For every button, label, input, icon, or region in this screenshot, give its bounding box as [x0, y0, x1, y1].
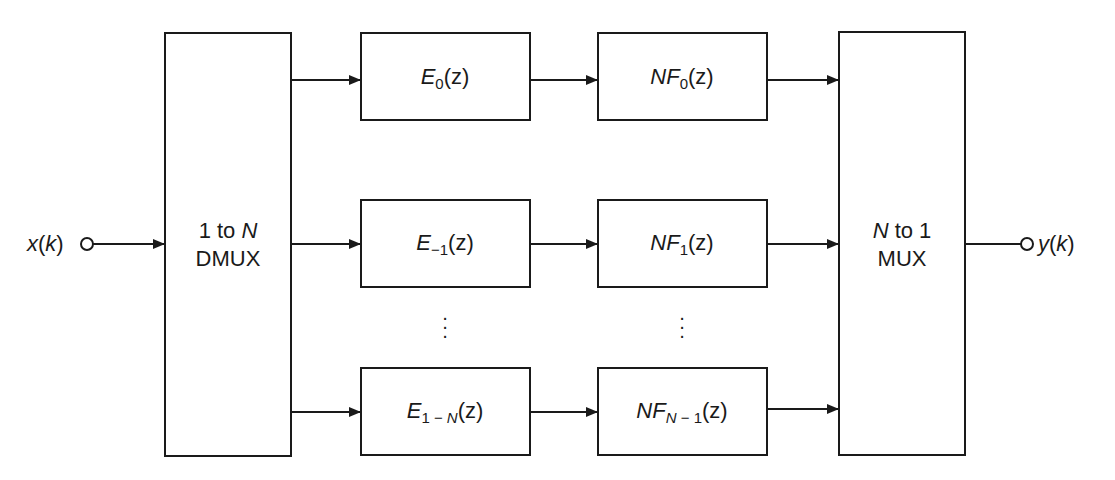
input-var: x: [27, 231, 38, 256]
input-terminal: [81, 238, 93, 250]
ellipsis-nf-column: ···: [679, 313, 686, 340]
e0-arg: (z): [444, 64, 470, 89]
nfn-1-symbol: NF: [636, 398, 665, 423]
e0-label: E0(z): [421, 66, 470, 88]
nf1-symbol: NF: [650, 230, 679, 255]
e1-n-label: E1 − N(z): [407, 400, 484, 422]
dmux-label: 1 to N DMUX: [196, 217, 261, 272]
e-1-symbol: E: [416, 230, 431, 255]
e1-n-arg: (z): [458, 398, 484, 423]
nf0-arg: (z): [688, 64, 714, 89]
diagram-canvas: [0, 0, 1115, 480]
output-arg: k: [1056, 231, 1067, 256]
nf0-label: NF0(z): [650, 66, 713, 88]
nf0-subscript: 0: [680, 75, 688, 92]
ellipsis-e-column: ···: [442, 313, 449, 340]
nf0-symbol: NF: [650, 64, 679, 89]
input-label: x(k): [27, 233, 64, 255]
nfn-1-subscript-var: N: [666, 409, 677, 426]
nf1-arg: (z): [688, 230, 714, 255]
input-arg: k: [45, 231, 56, 256]
mux-label: N to 1 MUX: [873, 217, 932, 272]
nf1-subscript: 1: [680, 241, 688, 258]
e1-n-subscript-var: N: [447, 409, 458, 426]
nf1-label: NF1(z): [650, 232, 713, 254]
e-1-arg: (z): [448, 230, 474, 255]
e-1-label: E−1(z): [416, 232, 473, 254]
output-terminal: [1021, 238, 1033, 250]
output-var: y: [1038, 231, 1049, 256]
output-label: y(k): [1038, 233, 1075, 255]
e-1-subscript: −1: [431, 241, 448, 258]
nfn-1-subscript-post: − 1: [677, 409, 702, 426]
e0-symbol: E: [421, 64, 436, 89]
e1-n-symbol: E: [407, 398, 422, 423]
dmux-line2: DMUX: [196, 245, 261, 270]
dmux-line1-prefix: 1 to: [199, 218, 242, 243]
mux-line2: MUX: [878, 245, 927, 270]
e0-subscript: 0: [435, 75, 443, 92]
mux-line1-suffix: to 1: [889, 218, 932, 243]
nfn-1-arg: (z): [702, 398, 728, 423]
dmux-line1-var: N: [241, 218, 257, 243]
e1-n-subscript-pre: 1 −: [421, 409, 446, 426]
mux-line1-var: N: [873, 218, 889, 243]
nfn-1-label: NFN − 1(z): [636, 400, 727, 422]
